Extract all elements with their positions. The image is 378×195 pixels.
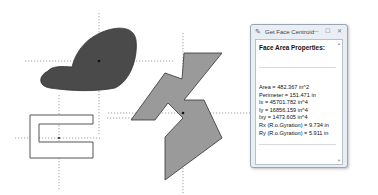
minimize-button[interactable]: — — [311, 27, 320, 35]
close-button[interactable]: ✕ — [335, 27, 344, 35]
dialog-titlebar[interactable]: ✎ Get Face Centroid — ☐ ✕ — [251, 25, 347, 38]
blob-centroid-point — [98, 60, 101, 63]
properties-text-area[interactable]: ▲ Face Area Properties: Area = 482.367 i… — [255, 39, 343, 165]
properties-list: Area = 482.367 in^2 Perimeter = 151.471 … — [259, 84, 329, 137]
c-shape-face[interactable] — [30, 115, 93, 158]
property-rx: Rx (R.o.Gyration) = 9.734 in — [259, 122, 329, 130]
pencil-icon: ✎ — [255, 28, 263, 36]
property-ix: Ix = 45701.782 in^4 — [259, 99, 329, 107]
property-area: Area = 482.367 in^2 — [259, 84, 329, 92]
zigzag-polygon-face[interactable] — [131, 53, 222, 180]
separator-top — [259, 67, 336, 68]
scroll-down-arrow-icon[interactable]: ▼ — [337, 158, 341, 163]
face-area-heading: Face Area Properties: — [259, 44, 325, 51]
property-ixy: Ixy = 1473.605 in^4 — [259, 114, 329, 122]
property-ry: Ry (R.o.Gyration) = 5.911 in — [259, 130, 329, 138]
polygon-centroid-point — [182, 112, 185, 115]
c-centroid-point — [58, 137, 60, 139]
scroll-up-arrow-icon[interactable]: ▲ — [337, 41, 341, 46]
blob-face[interactable] — [41, 28, 137, 91]
dialog-title: Get Face Centroid — [265, 29, 314, 35]
get-face-centroid-dialog: ✎ Get Face Centroid — ☐ ✕ ▲ Face Area Pr… — [250, 24, 348, 168]
property-perimeter: Perimeter = 151.471 in — [259, 92, 329, 100]
maximize-button[interactable]: ☐ — [323, 27, 332, 35]
separator-bottom — [259, 144, 336, 145]
property-iy: Iy = 16856.159 in^4 — [259, 107, 329, 115]
